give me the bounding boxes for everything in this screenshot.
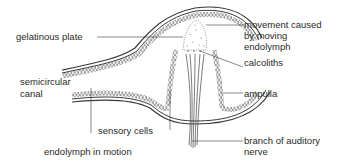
cupula (183, 20, 207, 52)
label-calcoliths: calcoliths (244, 57, 283, 68)
label-gelatinous-plate: gelatinous plate (16, 31, 83, 42)
label-movement-1: movement caused (244, 19, 322, 30)
label-movement-2: by moving (244, 30, 287, 41)
label-branch-2: nerve (244, 146, 268, 157)
label-endolymph-motion: endolymph in motion (44, 146, 132, 157)
label-branch-1: branch of auditory (244, 135, 320, 146)
upper-canal-wall (62, 7, 262, 76)
label-ampulla: ampulla (244, 88, 277, 99)
nerve-fibers (186, 54, 204, 148)
label-sensory-cells: sensory cells (98, 125, 153, 136)
label-semicircular-1: semicircular (20, 76, 71, 87)
label-movement-3: endolymph (244, 41, 290, 52)
label-semicircular-2: canal (20, 88, 43, 99)
